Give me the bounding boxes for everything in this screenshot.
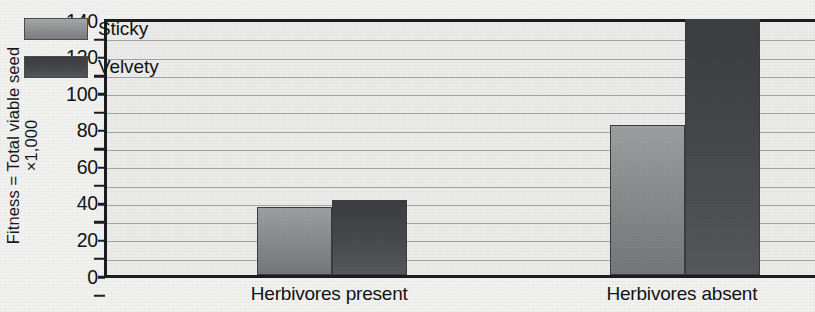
y-tick-label: 0 — [40, 265, 98, 288]
x-axis-label: Herbivores present — [251, 283, 408, 305]
y-tick-major — [94, 185, 105, 188]
bar-velvety-present — [332, 200, 407, 275]
y-tick-label: 40 — [40, 192, 98, 215]
bar-velvety-absent — [685, 19, 760, 275]
bar-sticky-absent — [610, 125, 685, 275]
legend-label-sticky: Sticky — [98, 18, 148, 40]
y-tick-minor — [98, 203, 105, 206]
y-tick-major — [94, 148, 105, 151]
y-tick-major — [94, 111, 105, 114]
x-axis-category-labels: Herbivores presentHerbivores absent — [104, 283, 815, 312]
legend-item-sticky: Sticky — [24, 18, 159, 40]
y-tick-minor — [98, 239, 105, 242]
bar-sticky-present — [257, 207, 332, 275]
y-tick-minor — [98, 130, 105, 133]
y-axis-title-line1: Fitness = Total viable seed — [5, 46, 23, 243]
y-tick-major — [94, 258, 105, 261]
x-axis-label: Herbivores absent — [606, 283, 757, 305]
legend-item-velvety: Velvety — [24, 56, 159, 78]
y-tick-label: 80 — [40, 119, 98, 142]
y-tick-major — [94, 221, 105, 224]
chart-figure: Fitness = Total viable seed ×1,000 02040… — [0, 0, 815, 312]
y-tick-label: 60 — [40, 155, 98, 178]
y-tick-minor — [98, 276, 105, 279]
plot-area — [104, 19, 815, 278]
y-tick-label: 20 — [40, 228, 98, 251]
y-tick-minor — [98, 166, 105, 169]
legend-label-velvety: Velvety — [98, 56, 159, 78]
legend-swatch-velvety — [24, 56, 88, 78]
legend-swatch-sticky — [24, 18, 88, 40]
legend: Sticky Velvety — [24, 18, 159, 94]
bar-group — [107, 22, 815, 275]
